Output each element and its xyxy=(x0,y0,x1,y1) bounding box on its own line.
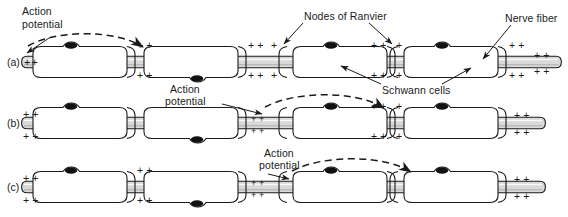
schwann-cell-b-2 xyxy=(144,108,238,144)
charge-b-n3b-top: + xyxy=(396,101,402,113)
charge-a-n2-bot: + + xyxy=(248,70,263,82)
nerve-fiber-label: Nerve fiber xyxy=(505,13,557,25)
action-potential-label-a-line1: Action xyxy=(22,6,52,18)
charge-c-left-top: + + xyxy=(23,173,38,185)
charge-c-right-bot: + + xyxy=(514,191,529,203)
charge-b-right-top: + + xyxy=(514,110,529,122)
charge-b-n2-top: + + xyxy=(251,114,264,126)
charge-a-n2b-bot: + xyxy=(271,70,277,82)
charge-a-right-top: + + xyxy=(534,50,549,62)
action-potential-label-a-line2: potential xyxy=(22,19,63,31)
charge-c-n1-top: + + xyxy=(137,165,152,177)
charge-c-right-top: + + xyxy=(514,174,529,186)
charge-a-n2-top: + + xyxy=(248,40,263,52)
action-potential-label-c-line1: Action xyxy=(264,148,294,160)
charge-b-left-top: + + xyxy=(23,109,38,121)
charge-a-n4-top: + + xyxy=(509,40,524,52)
schwann-cell-a-2 xyxy=(144,47,238,83)
charge-c-n2-top: + + xyxy=(251,178,264,190)
charge-b-n3-top: + + xyxy=(371,101,386,113)
figure-canvas xyxy=(0,0,568,217)
nodes-of-ranvier-label: Nodes of Ranvier xyxy=(304,11,387,23)
charge-a-n3-top: + + xyxy=(371,40,386,52)
charge-c-left-bot: + + xyxy=(23,195,38,207)
schwann-cell-a-1 xyxy=(33,42,127,78)
schwann-cell-c-3 xyxy=(293,167,387,203)
charge-a-right-bot: + + xyxy=(534,66,549,78)
schwann-cells-label: Schwann cells xyxy=(382,85,450,97)
panel-label-b: (b) xyxy=(7,117,20,129)
action-potential-label-c-line2: potential xyxy=(259,160,300,172)
charge-a-n1-top: + + xyxy=(137,40,152,52)
charge-c-n2-bot: + + xyxy=(251,190,264,202)
charge-c-n1-bot: + + xyxy=(137,195,152,207)
panel-label-c: (c) xyxy=(7,181,19,193)
action-potential-label-b-line2: potential xyxy=(165,96,206,108)
charge-b-left-bot: + + xyxy=(23,131,38,143)
schwann-cell-a-4 xyxy=(404,42,498,78)
panel-b-nerve xyxy=(22,95,546,143)
schwann-cell-b-1 xyxy=(33,103,127,139)
charge-a-n2b-top: + xyxy=(271,40,277,52)
charge-b-n2-bot: + + xyxy=(251,126,264,138)
schwann-cell-b-4 xyxy=(404,103,498,139)
schwann-cell-c-1 xyxy=(33,167,127,203)
charge-a-n3b-top: + xyxy=(396,40,402,52)
charge-a-n1-bot: + + xyxy=(137,70,152,82)
action-potential-label-b-line1: Action xyxy=(170,84,200,96)
schwann-cell-c-4 xyxy=(404,167,498,203)
saltatory-conduction-figure: (a) (b) (c) Action potential Action pote… xyxy=(0,0,568,217)
schwann-cell-c-2 xyxy=(144,172,238,208)
charge-a-n3-bot: + + xyxy=(371,70,386,82)
charge-b-n3b-bot: + xyxy=(396,131,402,143)
charge-a-n3b-bot: + xyxy=(396,70,402,82)
panel-label-a: (a) xyxy=(7,56,20,68)
charge-a-n4-bot: + + xyxy=(509,70,524,82)
charge-b-n3-bot: + + xyxy=(371,131,386,143)
charge-a-left: + + xyxy=(24,57,37,69)
charge-b-right-bot: + + xyxy=(514,127,529,139)
action-potential-arc-c xyxy=(292,159,411,172)
panel-a-nerve xyxy=(22,34,562,82)
